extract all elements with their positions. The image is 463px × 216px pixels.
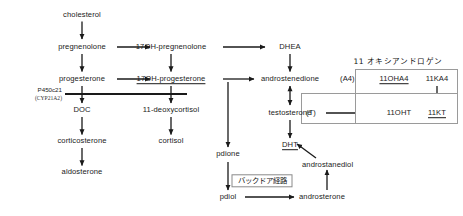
node-11-deoxycortisol: 11-deoxycortisol bbox=[143, 106, 199, 114]
node-androstenedione: androstenedione bbox=[261, 75, 319, 83]
node-11ka4: 11KA4 bbox=[426, 75, 449, 83]
node-a4-tag: (A4) bbox=[340, 75, 355, 83]
pathway-diagram: cholesterol pregnenolone progesterone DO… bbox=[0, 0, 463, 216]
node-androstanediol: androstanediol bbox=[302, 161, 353, 169]
node-17oh-pregnenolone: 17OH-pregnenolone bbox=[136, 43, 207, 51]
node-dht: DHT bbox=[282, 141, 298, 149]
node-pdione: pdione bbox=[216, 150, 239, 158]
node-pregnenolone: pregnenolone bbox=[58, 43, 106, 51]
node-progesterone: progesterone bbox=[59, 75, 105, 83]
node-doc: DOC bbox=[73, 106, 90, 114]
node-11kt: 11KT bbox=[428, 109, 446, 117]
node-cholesterol: cholesterol bbox=[63, 11, 101, 19]
node-11oht: 11OHT bbox=[387, 109, 411, 117]
node-11oha4: 11OHA4 bbox=[379, 75, 408, 83]
enzyme-gene: (CYP21A2) bbox=[35, 95, 62, 101]
node-pdiol: pdiol bbox=[220, 193, 237, 201]
node-t-tag: (T) bbox=[306, 109, 316, 117]
oxyandrogen-heading: 11 オキシアンドロゲン bbox=[354, 58, 443, 66]
enzyme-name: P450c21 bbox=[38, 86, 62, 93]
backdoor-pathway-box: バックドア経路 bbox=[232, 174, 293, 187]
node-dhea: DHEA bbox=[279, 43, 301, 51]
enzyme-label-p450c21: P450c21 (CYP21A2) bbox=[35, 86, 62, 102]
node-17oh-progesterone: 17OH-progesterone bbox=[137, 75, 206, 83]
node-corticosterone: corticosterone bbox=[57, 137, 106, 145]
node-aldosterone: aldosterone bbox=[62, 168, 103, 176]
node-cortisol: cortisol bbox=[159, 137, 184, 145]
node-androsterone: androsterone bbox=[299, 193, 345, 201]
